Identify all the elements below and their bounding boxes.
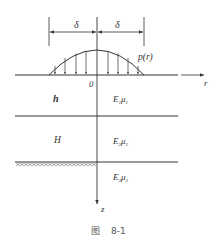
figure-caption-number: 8-1 [111,226,126,236]
figure-caption-prefix: 图 [91,226,100,236]
rough-interface-hatching [16,163,96,166]
z-axis-label: z [100,204,105,214]
load-distribution-curve [49,50,144,75]
origin-label: 0 [89,79,94,89]
dimension-lines [49,17,144,46]
r-axis-label: r [204,78,208,88]
load-label: p(r) [137,52,153,63]
load-arrows [55,51,138,74]
layered-system-diagram: δ δ z p(r) r 0 h E1μ1 H E2μ2 E3μ3 图 8-1 [0,0,219,251]
layer2-properties: E2μ2 [112,136,129,147]
delta-right-label: δ [115,19,120,30]
layer1-properties: E1μ1 [112,94,128,105]
layer3-properties: E3μ3 [112,172,129,183]
layer1-thickness-label: h [53,93,59,104]
delta-left-label: δ [74,19,79,30]
layer2-thickness-label: H [53,135,62,145]
